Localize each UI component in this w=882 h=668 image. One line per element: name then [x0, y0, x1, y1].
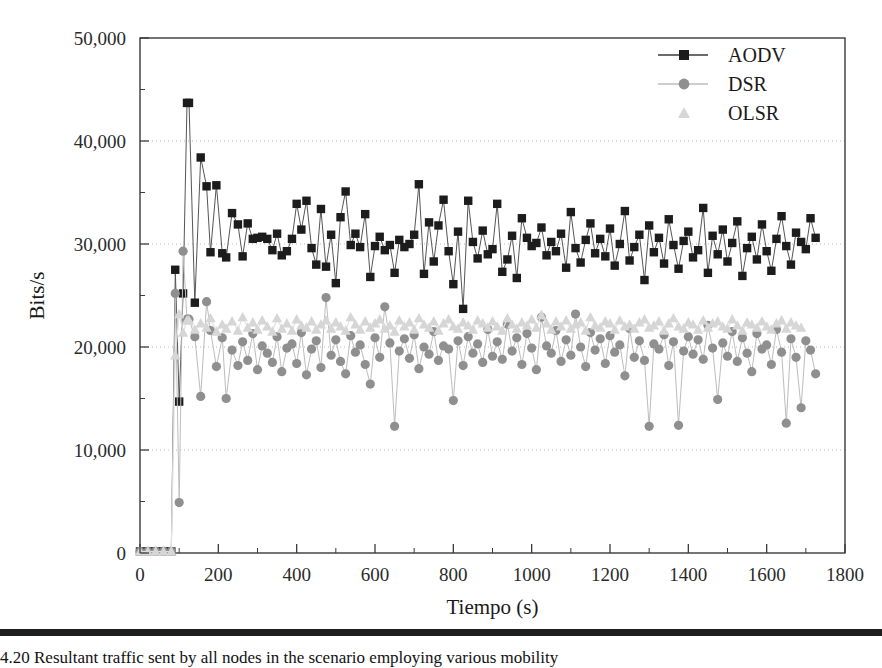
- marker-triangle: [385, 320, 395, 329]
- marker-circle: [767, 360, 776, 369]
- marker-square: [772, 235, 780, 243]
- marker-circle: [782, 419, 791, 428]
- marker-square: [714, 250, 722, 258]
- marker-square: [332, 279, 340, 287]
- marker-triangle: [248, 317, 258, 326]
- marker-square: [787, 260, 795, 268]
- marker-square: [488, 245, 496, 253]
- marker-circle: [385, 338, 394, 347]
- marker-circle: [478, 358, 487, 367]
- marker-square: [616, 240, 624, 248]
- marker-triangle: [257, 315, 267, 324]
- y-tick-label: 50,000: [74, 28, 126, 49]
- marker-square: [273, 230, 281, 238]
- marker-triangle: [394, 315, 404, 324]
- marker-circle: [380, 302, 389, 311]
- marker-square: [650, 248, 658, 256]
- marker-circle: [654, 344, 663, 353]
- x-tick-label: 200: [204, 564, 233, 585]
- marker-triangle: [237, 312, 247, 321]
- marker-circle: [733, 357, 742, 366]
- x-tick-label: 1600: [748, 564, 786, 585]
- y-tick-label: 10,000: [74, 440, 126, 461]
- marker-circle: [222, 394, 231, 403]
- marker-circle: [453, 336, 462, 345]
- legend-marker-circle: [679, 79, 690, 90]
- marker-triangle: [429, 316, 439, 325]
- marker-circle: [615, 340, 624, 349]
- marker-circle: [679, 347, 688, 356]
- marker-circle: [742, 349, 751, 358]
- marker-square: [292, 200, 300, 208]
- marker-triangle: [291, 314, 301, 323]
- marker-circle: [498, 355, 507, 364]
- marker-square: [738, 272, 746, 280]
- marker-square: [317, 205, 325, 213]
- marker-square: [361, 210, 369, 218]
- marker-square: [336, 213, 344, 221]
- marker-triangle: [233, 325, 243, 334]
- marker-circle: [718, 338, 727, 347]
- marker-circle: [307, 344, 316, 353]
- marker-square: [743, 244, 751, 252]
- marker-circle: [233, 361, 242, 370]
- marker-square: [366, 273, 374, 281]
- marker-square: [405, 240, 413, 248]
- marker-square: [630, 243, 638, 251]
- marker-square: [699, 204, 707, 212]
- marker-square: [625, 256, 633, 264]
- marker-circle: [268, 358, 277, 367]
- marker-triangle: [205, 313, 215, 322]
- marker-circle: [424, 350, 433, 359]
- x-tick-label: 800: [439, 564, 468, 585]
- marker-square: [660, 259, 668, 267]
- marker-square: [503, 255, 511, 263]
- legend-label-olsr: OLSR: [728, 102, 780, 124]
- marker-square: [684, 227, 692, 235]
- marker-circle: [361, 360, 370, 369]
- marker-square: [222, 253, 230, 261]
- marker-circle: [321, 293, 330, 302]
- marker-square: [430, 257, 438, 265]
- marker-circle: [576, 342, 585, 351]
- marker-square: [415, 180, 423, 188]
- marker-circle: [522, 329, 531, 338]
- marker-circle: [473, 339, 482, 348]
- marker-square: [498, 268, 506, 276]
- marker-circle: [341, 369, 350, 378]
- marker-square: [782, 242, 790, 250]
- marker-square: [434, 221, 442, 229]
- marker-circle: [212, 362, 221, 371]
- marker-square: [674, 265, 682, 273]
- marker-circle: [532, 365, 541, 374]
- marker-square: [792, 228, 800, 236]
- marker-triangle: [776, 315, 786, 324]
- marker-square: [767, 267, 775, 275]
- marker-circle: [635, 336, 644, 345]
- marker-circle: [688, 350, 697, 359]
- marker-circle: [547, 349, 556, 358]
- marker-square: [212, 181, 220, 189]
- marker-circle: [366, 379, 375, 388]
- marker-square: [601, 252, 609, 260]
- marker-square: [728, 239, 736, 247]
- marker-square: [586, 219, 594, 227]
- marker-circle: [390, 422, 399, 431]
- marker-square: [454, 227, 462, 235]
- marker-square: [635, 231, 643, 239]
- marker-circle: [601, 359, 610, 368]
- marker-square: [621, 207, 629, 215]
- y-tick-label: 0: [117, 543, 127, 564]
- marker-circle: [684, 332, 693, 341]
- marker-square: [694, 246, 702, 254]
- marker-circle: [791, 353, 800, 362]
- x-tick-label: 1400: [669, 564, 707, 585]
- marker-square: [802, 245, 810, 253]
- marker-square: [704, 269, 712, 277]
- marker-square: [523, 234, 531, 242]
- marker-square: [376, 233, 384, 241]
- marker-square: [679, 237, 687, 245]
- marker-square: [542, 251, 550, 259]
